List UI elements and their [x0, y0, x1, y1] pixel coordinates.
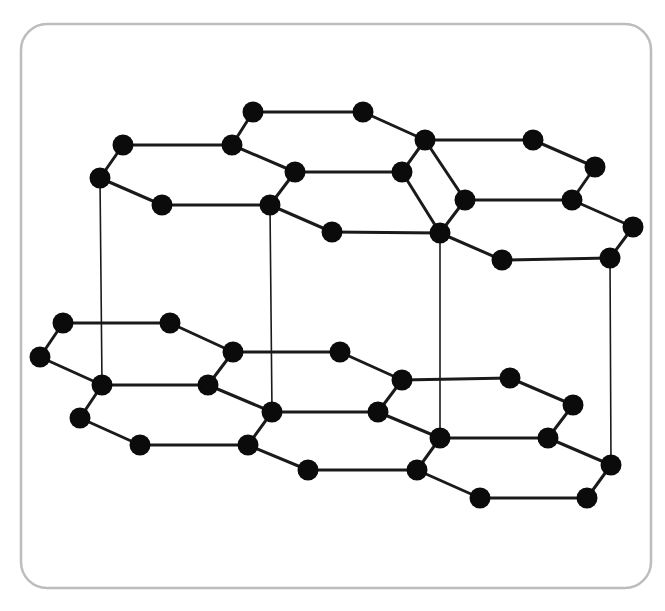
upper-layer-bond: [402, 172, 440, 233]
carbon-atom-upper: [392, 162, 413, 183]
carbon-atom-lower: [160, 313, 181, 334]
carbon-atom-lower: [392, 370, 413, 391]
carbon-atom-lower: [577, 488, 598, 509]
carbon-atom-upper: [492, 250, 513, 271]
carbon-atom-upper: [152, 195, 173, 216]
carbon-atom-lower: [30, 347, 51, 368]
carbon-atom-lower: [470, 488, 491, 509]
upper-layer-bond: [425, 140, 465, 200]
carbon-atom-lower: [430, 428, 451, 449]
carbon-atom-upper: [523, 130, 544, 151]
upper-layer-atom-group: [90, 102, 644, 271]
rounded-panel-border: [21, 24, 651, 588]
carbon-atom-upper: [243, 102, 264, 123]
carbon-atom-upper: [285, 162, 306, 183]
graphite-lattice-svg: [0, 0, 665, 611]
carbon-atom-upper: [623, 217, 644, 238]
carbon-atom-upper: [455, 190, 476, 211]
interlayer-bond: [610, 258, 611, 465]
carbon-atom-lower: [407, 460, 428, 481]
carbon-atom-upper: [585, 157, 606, 178]
carbon-atom-upper: [430, 223, 451, 244]
carbon-atom-lower: [198, 375, 219, 396]
carbon-atom-lower: [538, 428, 559, 449]
carbon-atom-upper: [260, 195, 281, 216]
carbon-atom-lower: [92, 375, 113, 396]
carbon-atom-lower: [601, 455, 622, 476]
carbon-atom-lower: [223, 342, 244, 363]
carbon-atom-lower: [238, 435, 259, 456]
interlayer-bond: [270, 205, 272, 412]
lower-layer-bond-group: [40, 323, 611, 498]
carbon-atom-lower: [70, 408, 91, 429]
carbon-atom-lower: [563, 395, 584, 416]
lower-layer-bond: [402, 378, 510, 380]
carbon-atom-lower: [262, 402, 283, 423]
carbon-atom-upper: [113, 135, 134, 156]
carbon-atom-lower: [368, 402, 389, 423]
upper-layer-bond: [502, 258, 610, 260]
carbon-atom-upper: [562, 190, 583, 211]
carbon-atom-upper: [322, 222, 343, 243]
carbon-atom-upper: [600, 248, 621, 269]
carbon-atom-lower: [330, 342, 351, 363]
upper-layer-bond-group: [100, 112, 633, 260]
carbon-atom-upper: [90, 168, 111, 189]
interlayer-bond: [100, 178, 102, 385]
carbon-atom-upper: [353, 102, 374, 123]
carbon-atom-lower: [53, 313, 74, 334]
carbon-atom-upper: [415, 130, 436, 151]
upper-layer-bond: [332, 232, 440, 233]
carbon-atom-lower: [500, 368, 521, 389]
carbon-atom-lower: [298, 460, 319, 481]
figure-root: [0, 0, 665, 611]
carbon-atom-lower: [130, 435, 151, 456]
carbon-atom-upper: [222, 135, 243, 156]
